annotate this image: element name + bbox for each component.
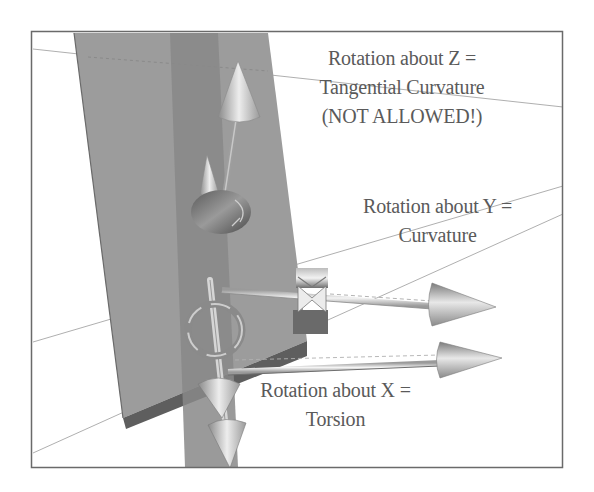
z-rotation-ring-body: [191, 190, 251, 234]
y-rotation-ring-bottom: [293, 310, 328, 334]
label-y-line1: Rotation about Y =: [330, 192, 545, 221]
label-rotation-y: Rotation about Y = Curvature: [330, 192, 545, 250]
label-z-line1: Rotation about Z =: [282, 44, 522, 73]
label-rotation-z: Rotation about Z = Tangential Curvature …: [282, 44, 522, 131]
label-rotation-x: Rotation about X = Torsion: [228, 376, 443, 434]
label-x-line2: Torsion: [228, 405, 443, 434]
label-z-line2: Tangential Curvature: [282, 73, 522, 102]
z-rotation-ring: [191, 190, 251, 234]
y-rotation-ring: [293, 268, 328, 334]
label-x-line1: Rotation about X =: [228, 376, 443, 405]
secondary-y-cone: [437, 342, 503, 378]
y-axis-cone: [429, 283, 497, 326]
y-rotation-ring-mid: [298, 286, 326, 312]
label-y-line2: Curvature: [330, 221, 545, 250]
label-z-line3: (NOT ALLOWED!): [282, 102, 522, 131]
y-rotation-ring-top: [296, 268, 328, 288]
